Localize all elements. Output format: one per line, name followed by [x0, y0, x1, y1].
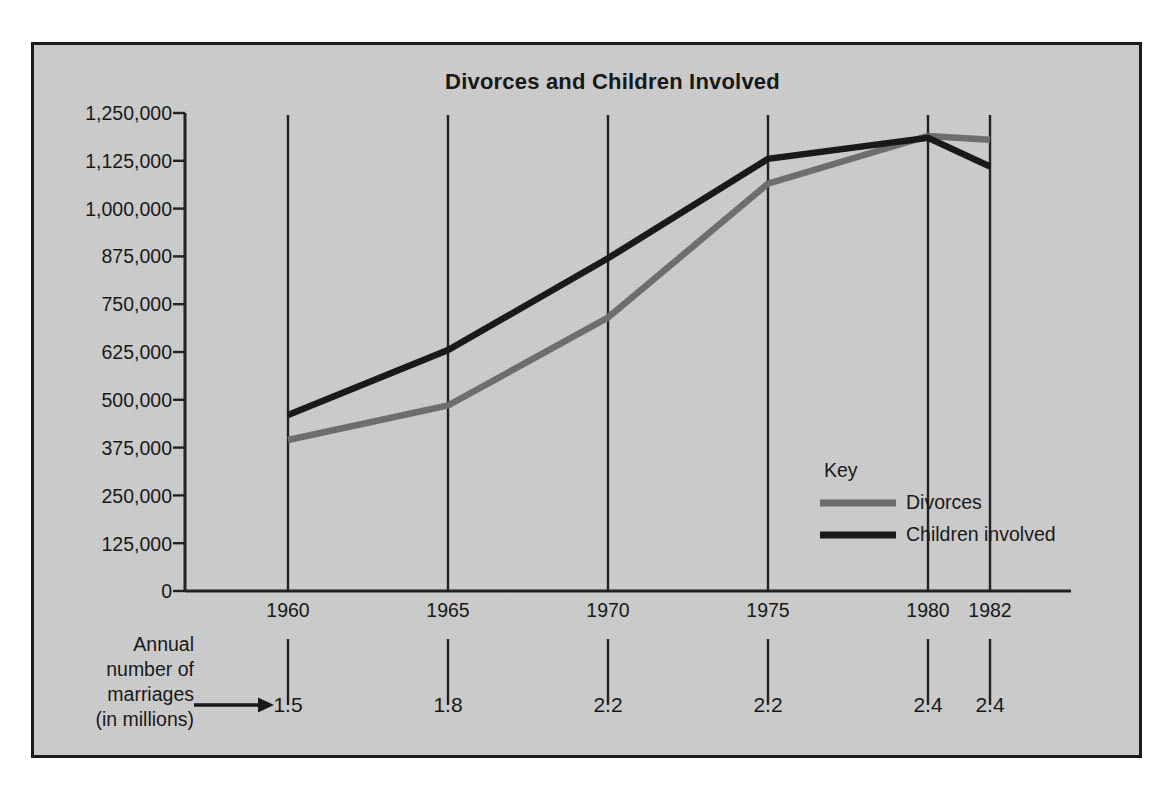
y-tick-label: 125,000	[22, 533, 172, 556]
legend-label-children: Children involved	[906, 523, 1056, 546]
y-tick-label: 0	[22, 580, 172, 603]
figure-canvas: Divorces and Children Involved	[0, 0, 1170, 787]
marriages-value: 2.4	[930, 693, 1050, 717]
y-tick-label: 1,250,000	[22, 102, 172, 125]
y-tick-label: 875,000	[22, 245, 172, 268]
marriages-caption-line: Annual	[34, 632, 194, 657]
y-tick-marks	[173, 113, 185, 591]
marriages-value: 1.5	[228, 693, 348, 717]
marriages-caption-line: number of	[34, 657, 194, 682]
x-tick-label: 1960	[228, 599, 348, 622]
legend-label-divorces: Divorces	[906, 491, 982, 514]
x-tick-label: 1975	[708, 599, 828, 622]
y-tick-label: 625,000	[22, 341, 172, 364]
marriages-caption-line: marriages	[34, 682, 194, 707]
y-tick-label: 250,000	[22, 485, 172, 508]
y-tick-label: 1,000,000	[22, 198, 172, 221]
marriages-caption: Annual number of marriages (in millions)	[34, 632, 194, 732]
marriages-value: 1.8	[388, 693, 508, 717]
y-tick-label: 375,000	[22, 437, 172, 460]
x-tick-label: 1970	[548, 599, 668, 622]
x-tick-label: 1982	[930, 599, 1050, 622]
chart-panel: Divorces and Children Involved	[31, 42, 1142, 758]
series-line-divorces	[288, 136, 990, 440]
plot-area	[34, 45, 1139, 755]
x-tick-label: 1965	[388, 599, 508, 622]
legend-title: Key	[824, 459, 858, 482]
y-tick-label: 500,000	[22, 389, 172, 412]
y-tick-label: 750,000	[22, 293, 172, 316]
series-line-children	[288, 138, 990, 415]
marriages-caption-line: (in millions)	[34, 707, 194, 732]
marriages-value: 2.2	[708, 693, 828, 717]
marriages-value: 2.2	[548, 693, 668, 717]
y-tick-label: 1,125,000	[22, 150, 172, 173]
